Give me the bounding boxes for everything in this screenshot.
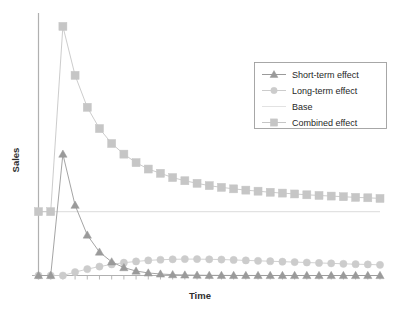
data-point-marker bbox=[364, 194, 372, 202]
data-point-marker bbox=[47, 208, 55, 216]
data-point-marker bbox=[364, 261, 371, 268]
data-point-marker bbox=[108, 139, 116, 147]
data-point-marker bbox=[291, 190, 299, 198]
y-axis-title: Sales bbox=[10, 148, 21, 173]
chart-figure: Sales Time Short-term effectLong-term ef… bbox=[0, 0, 397, 311]
data-point-marker bbox=[340, 260, 347, 267]
data-point-marker bbox=[193, 255, 200, 262]
data-point-marker bbox=[169, 174, 177, 182]
data-point-marker bbox=[352, 193, 360, 201]
data-point-marker bbox=[291, 258, 298, 265]
data-point-marker bbox=[254, 187, 262, 195]
data-point-marker bbox=[303, 191, 311, 199]
data-point-marker bbox=[181, 255, 188, 262]
data-point-marker bbox=[217, 183, 225, 191]
legend-swatch-circle-icon bbox=[271, 87, 277, 93]
data-point-marker bbox=[193, 179, 201, 187]
data-point-marker bbox=[328, 260, 335, 267]
data-point-marker bbox=[59, 22, 67, 30]
data-point-marker bbox=[303, 259, 310, 266]
data-point-marker bbox=[339, 193, 347, 201]
data-point-marker bbox=[376, 194, 384, 202]
data-point-marker bbox=[71, 71, 79, 79]
data-point-marker bbox=[83, 103, 91, 111]
legend-label: Combined effect bbox=[292, 118, 358, 128]
data-point-marker bbox=[267, 258, 274, 265]
x-axis-title: Time bbox=[189, 290, 211, 301]
data-point-marker bbox=[315, 191, 323, 199]
data-point-marker bbox=[157, 256, 164, 263]
legend-label: Long-term effect bbox=[292, 86, 358, 96]
data-point-marker bbox=[315, 259, 322, 266]
data-point-marker bbox=[95, 125, 103, 133]
legend-swatch-square-icon bbox=[270, 119, 277, 126]
data-point-marker bbox=[279, 258, 286, 265]
data-point-marker bbox=[230, 185, 238, 193]
data-point-marker bbox=[352, 261, 359, 268]
data-point-marker bbox=[169, 256, 176, 263]
data-point-marker bbox=[206, 256, 213, 263]
data-point-marker bbox=[181, 177, 189, 185]
data-point-marker bbox=[145, 257, 152, 264]
data-point-marker bbox=[144, 165, 152, 173]
chart-legend: Short-term effectLong-term effectBaseCom… bbox=[255, 63, 387, 129]
data-point-marker bbox=[132, 258, 139, 265]
legend-label: Base bbox=[292, 102, 313, 112]
data-point-marker bbox=[59, 272, 66, 279]
data-point-marker bbox=[205, 182, 213, 190]
data-point-marker bbox=[132, 159, 140, 167]
data-point-marker bbox=[156, 169, 164, 177]
data-point-marker bbox=[376, 261, 383, 268]
data-point-marker bbox=[218, 256, 225, 263]
legend-label: Short-term effect bbox=[292, 70, 359, 80]
data-point-marker bbox=[278, 189, 286, 197]
data-point-marker bbox=[327, 192, 335, 200]
data-point-marker bbox=[120, 150, 128, 158]
data-point-marker bbox=[266, 188, 274, 196]
data-point-marker bbox=[242, 257, 249, 264]
data-point-marker bbox=[71, 268, 78, 275]
data-point-marker bbox=[84, 266, 91, 273]
data-point-marker bbox=[35, 208, 43, 216]
data-point-marker bbox=[230, 256, 237, 263]
data-point-marker bbox=[242, 186, 250, 194]
sales-effect-line-chart: Sales Time Short-term effectLong-term ef… bbox=[0, 0, 397, 311]
data-point-marker bbox=[96, 263, 103, 270]
data-point-marker bbox=[254, 257, 261, 264]
